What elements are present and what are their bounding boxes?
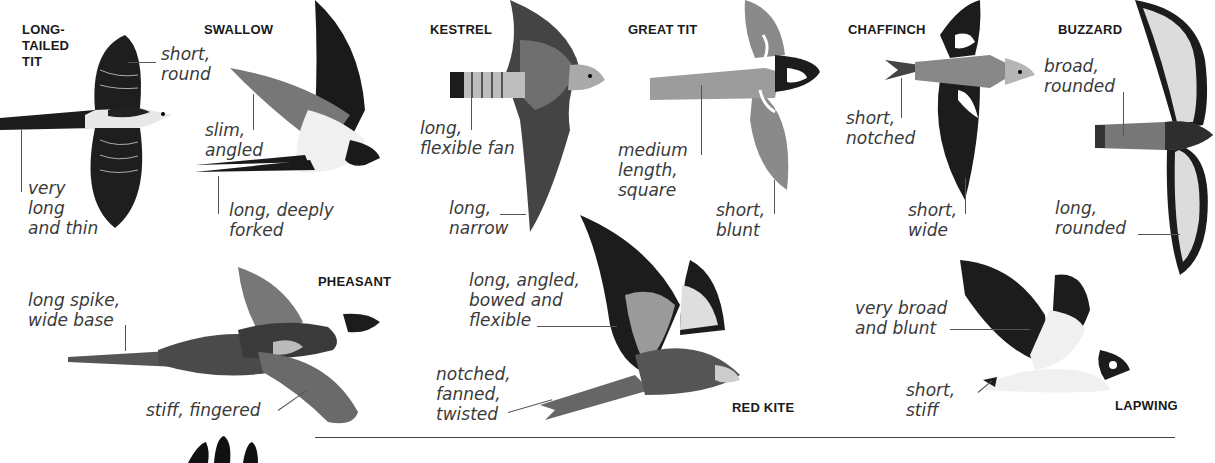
buzzard-illustration bbox=[1095, 0, 1215, 280]
label-long-tailed-tit-tail: very long and thin bbox=[28, 178, 98, 238]
label-kestrel-wing: long, narrow bbox=[449, 198, 508, 238]
label-lapwing-wing: very broad and blunt bbox=[855, 298, 947, 338]
label-pheasant-tail: long spike, wide base bbox=[28, 290, 120, 330]
label-buzzard-wing-bottom: long, rounded bbox=[1055, 198, 1126, 238]
label-chaffinch-tail: short, notched bbox=[846, 108, 915, 148]
pointer-line bbox=[701, 85, 702, 155]
pointer-line bbox=[965, 178, 966, 214]
section-divider bbox=[315, 437, 1175, 438]
pointer-line bbox=[125, 325, 126, 351]
label-chaffinch-wing: short, wide bbox=[908, 200, 957, 240]
label-pheasant-wing: stiff, fingered bbox=[146, 400, 261, 420]
label-swallow-wing: slim, angled bbox=[205, 120, 263, 160]
bird-title-lapwing: LAPWING bbox=[1115, 398, 1178, 414]
label-red-kite-tail: notched, fanned, twisted bbox=[436, 364, 511, 424]
partial-bird-wing-illustration bbox=[188, 436, 268, 463]
pointer-line bbox=[1123, 92, 1124, 136]
pointer-line bbox=[218, 176, 219, 214]
pointer-line bbox=[774, 180, 775, 214]
label-buzzard-wing-top: broad, rounded bbox=[1044, 56, 1115, 96]
label-lapwing-tail: short, stiff bbox=[906, 380, 955, 420]
lapwing-illustration bbox=[955, 255, 1145, 395]
label-kestrel-tail: long, flexible fan bbox=[420, 118, 515, 158]
pointer-line bbox=[21, 130, 22, 192]
pointer-line bbox=[128, 62, 156, 63]
label-great-tit-tail: medium length, square bbox=[618, 140, 688, 200]
pointer-line bbox=[1138, 234, 1180, 235]
label-red-kite-wing: long, angled, bowed and flexible bbox=[469, 270, 580, 330]
pointer-line bbox=[950, 329, 1030, 330]
chaffinch-illustration bbox=[880, 0, 1040, 200]
label-swallow-tail: long, deeply forked bbox=[229, 200, 334, 240]
